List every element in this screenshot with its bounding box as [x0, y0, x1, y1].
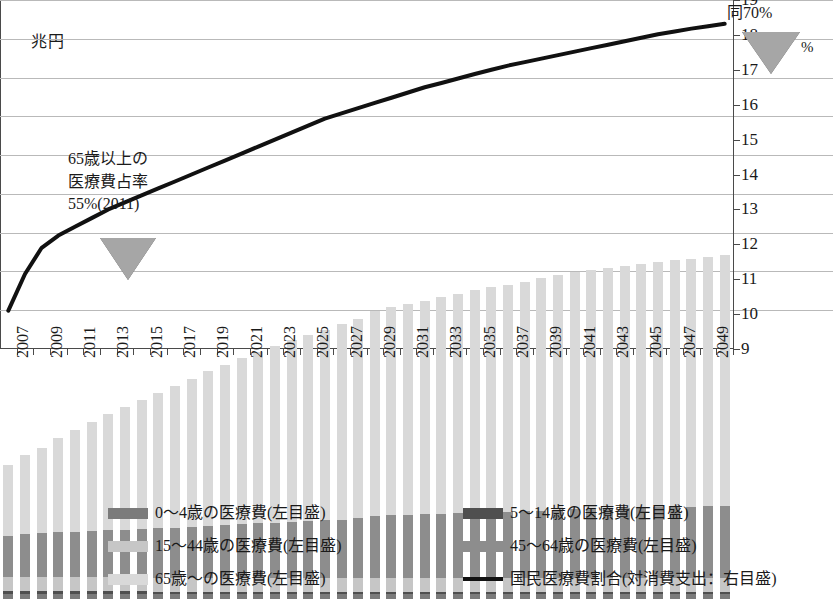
x-axis-tick — [367, 349, 368, 355]
x-axis-tick — [733, 349, 734, 355]
bar-segment — [353, 594, 363, 599]
bar-segment — [703, 594, 713, 599]
annotation-same-70: 同70% — [727, 2, 772, 25]
bar-segment — [520, 594, 530, 599]
y-axis-label-right: 10 — [741, 305, 775, 322]
bar-segment — [253, 592, 263, 595]
annotation-elderly-share: 65歳以上の 医療費占率 55%(2011) — [68, 148, 148, 216]
bar-segment — [703, 592, 713, 595]
marker-triangle-2011 — [100, 238, 156, 280]
bar-segment — [70, 591, 80, 594]
bar-segment — [270, 594, 280, 599]
legend-item[interactable]: 0～4歳の医療費(左目盛) — [108, 505, 463, 521]
bar-segment — [203, 594, 213, 599]
bar-segment — [303, 592, 313, 595]
bar-segment — [37, 594, 47, 599]
bar-segment — [20, 594, 30, 599]
bar-segment — [220, 592, 230, 595]
bar-segment — [170, 594, 180, 599]
bar-segment — [553, 594, 563, 599]
bar-segment — [3, 591, 13, 594]
bar-segment — [103, 594, 113, 599]
bar-segment — [420, 594, 430, 599]
bar-segment — [237, 594, 247, 599]
bar-segment — [486, 594, 496, 599]
bar-segment — [203, 592, 213, 595]
bar-segment — [520, 592, 530, 595]
legend-item[interactable]: 15～44歳の医療費(左目盛) — [108, 538, 463, 554]
x-axis-tick — [566, 349, 567, 355]
bar-segment — [3, 577, 13, 591]
bar-segment — [287, 340, 297, 521]
bar-segment — [3, 594, 13, 599]
annotation-elderly-share-line3: 55%(2011) — [68, 193, 148, 216]
bar-segment — [586, 592, 596, 595]
x-axis-tick — [633, 349, 634, 355]
y-axis-tick-right — [733, 349, 740, 350]
bar-segment — [686, 592, 696, 595]
legend-item[interactable]: 5～14歳の医療費(左目盛) — [463, 505, 798, 521]
x-axis-tick — [533, 349, 534, 355]
bar-segment — [470, 592, 480, 595]
bar-segment — [37, 533, 47, 576]
bar-segment — [403, 594, 413, 599]
bar-segment — [686, 594, 696, 599]
x-axis-tick — [300, 349, 301, 355]
bar-segment — [3, 465, 13, 536]
x-axis-tick — [400, 349, 401, 355]
bar-segment — [320, 592, 330, 595]
bar-segment — [620, 594, 630, 599]
annotation-elderly-share-line1: 65歳以上の — [68, 148, 148, 171]
bar-segment — [137, 591, 147, 594]
bar-segment — [720, 594, 730, 599]
bar-segment — [436, 594, 446, 599]
legend-color-swatch — [108, 541, 148, 552]
bar-segment — [37, 448, 47, 534]
bar-segment — [87, 531, 97, 577]
bar-segment — [137, 594, 147, 599]
bar-segment — [337, 594, 347, 599]
y-axis-label-right: 15 — [741, 131, 775, 148]
bar-segment — [453, 592, 463, 595]
bar-segment — [420, 592, 430, 595]
x-axis-tick — [433, 349, 434, 355]
bar-segment — [636, 592, 646, 595]
bar-segment — [87, 594, 97, 599]
bar-segment — [20, 577, 30, 591]
bar-segment — [270, 346, 280, 522]
bar-segment — [303, 594, 313, 599]
bar-segment — [536, 592, 546, 595]
right-axis-spine — [733, 0, 734, 349]
bar-segment — [287, 594, 297, 599]
x-axis-tick — [600, 349, 601, 355]
bar-segment — [720, 592, 730, 595]
bar-segment — [120, 594, 130, 599]
bar-segment — [253, 594, 263, 599]
legend-item[interactable]: 国民医療費割合(対消費支出：右目盛) — [463, 571, 798, 587]
x-axis-tick — [200, 349, 201, 355]
bar-segment — [237, 358, 247, 524]
legend-line-swatch — [463, 577, 503, 581]
bar-segment — [653, 592, 663, 595]
legend-label: 15～44歳の医療費(左目盛) — [155, 538, 342, 554]
annotation-same-70-label: 同70% — [727, 2, 772, 25]
legend-color-swatch — [108, 508, 148, 519]
x-axis-tick — [466, 349, 467, 355]
bar-segment — [453, 594, 463, 599]
bar-segment — [87, 422, 97, 531]
x-axis-tick — [133, 349, 134, 355]
x-axis-tick — [100, 349, 101, 355]
bar-segment — [37, 591, 47, 594]
x-axis-tick — [33, 349, 34, 355]
legend-item[interactable]: 45～64歳の医療費(左目盛) — [463, 538, 798, 554]
legend-label: 45～64歳の医療費(左目盛) — [510, 538, 697, 554]
bar-segment — [53, 594, 63, 599]
bar-segment — [70, 594, 80, 599]
legend-item[interactable]: 65歳～の医療費(左目盛) — [108, 571, 463, 587]
bar-segment — [270, 592, 280, 595]
bar-segment — [170, 592, 180, 595]
bar-segment — [337, 592, 347, 595]
bar-segment — [3, 536, 13, 577]
bar-segment — [653, 594, 663, 599]
bar-segment — [670, 594, 680, 599]
